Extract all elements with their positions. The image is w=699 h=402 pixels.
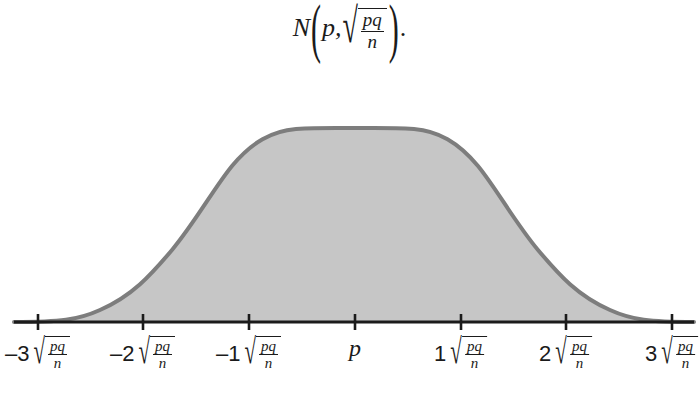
tick-label-minus-1: –1 √ pqn	[216, 336, 282, 371]
tick-label-plus-2: 2 √ pqn	[539, 336, 593, 371]
tick-label-minus-3: –3 √ pqn	[5, 336, 71, 371]
tick-fraction-denominator: n	[570, 355, 589, 371]
tick-fraction: pqn	[153, 338, 172, 371]
radical-icon: √	[33, 335, 45, 371]
tick-fraction-numerator: pq	[259, 338, 278, 355]
tick-coefficient: –1	[216, 343, 240, 365]
tick-fraction-denominator: n	[48, 355, 67, 371]
tick-sqrt: √ pqn	[661, 336, 698, 371]
tick-coefficient: 3	[645, 343, 657, 365]
tick-radicand: pqn	[45, 336, 70, 371]
tick-coefficient: 2	[539, 343, 551, 365]
tick-fraction: pqn	[48, 338, 67, 371]
tick-radicand: pqn	[256, 336, 281, 371]
tick-coefficient: –3	[5, 343, 29, 365]
tick-radicand: pqn	[150, 336, 175, 371]
tick-sqrt: √ pqn	[555, 336, 592, 371]
tick-label-mean: p	[349, 336, 361, 360]
radical-icon: √	[661, 335, 673, 371]
radical-icon: √	[138, 335, 150, 371]
tick-label-minus-2: –2 √ pqn	[110, 336, 176, 371]
tick-sqrt: √ pqn	[138, 336, 175, 371]
tick-fraction-denominator: n	[676, 355, 695, 371]
tick-fraction-denominator: n	[259, 355, 278, 371]
tick-sqrt: √ pqn	[33, 336, 70, 371]
tick-fraction: pqn	[570, 338, 589, 371]
tick-radicand: pqn	[673, 336, 698, 371]
radical-icon: √	[450, 335, 462, 371]
tick-fraction-denominator: n	[465, 355, 484, 371]
tick-fraction-numerator: pq	[570, 338, 589, 355]
radical-icon: √	[555, 335, 567, 371]
tick-label-plus-1: 1 √ pqn	[434, 336, 488, 371]
tick-fraction-numerator: pq	[676, 338, 695, 355]
tick-fraction-numerator: pq	[465, 338, 484, 355]
tick-sqrt: √ pqn	[244, 336, 281, 371]
tick-fraction: pqn	[465, 338, 484, 371]
tick-fraction-numerator: pq	[153, 338, 172, 355]
tick-radicand: pqn	[462, 336, 487, 371]
radical-icon: √	[244, 335, 256, 371]
normal-distribution-figure: N(p,√pqn). –3 √ pqn –2 √ pqn	[0, 0, 699, 402]
tick-fraction-denominator: n	[153, 355, 172, 371]
tick-fraction: pqn	[259, 338, 278, 371]
tick-label-plus-3: 3 √ pqn	[645, 336, 699, 371]
tick-radicand: pqn	[567, 336, 592, 371]
tick-coefficient: p	[349, 336, 361, 360]
normal-density-fill	[14, 128, 694, 322]
tick-coefficient: –2	[110, 343, 134, 365]
tick-sqrt: √ pqn	[450, 336, 487, 371]
tick-coefficient: 1	[434, 343, 446, 365]
tick-fraction-numerator: pq	[48, 338, 67, 355]
tick-fraction: pqn	[676, 338, 695, 371]
